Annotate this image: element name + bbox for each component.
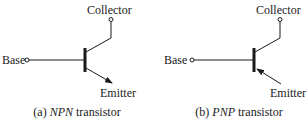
pnp-collector-label: Collector (256, 4, 301, 16)
caption-type: NPN (50, 105, 73, 119)
npn-base-label: Base (2, 54, 25, 66)
pnp-caption: (b) PNP transistor (162, 106, 308, 118)
npn-caption: (a) NPN transistor (0, 106, 154, 118)
npn-emitter-label: Emitter (100, 87, 136, 99)
pnp-emitter-label: Emitter (270, 87, 306, 99)
caption-prefix: (b) (195, 105, 212, 119)
caption-prefix: (a) (33, 105, 49, 119)
panel-npn: Collector Base Emitter (a) NPN transisto… (0, 0, 154, 129)
npn-collector-label: Collector (87, 4, 132, 16)
caption-suffix: transistor (235, 105, 283, 119)
pnp-base-label: Base (164, 54, 187, 66)
caption-suffix: transistor (73, 105, 121, 119)
panel-pnp: Collector Base Emitter (b) PNP transisto… (154, 0, 308, 129)
caption-type: PNP (212, 105, 235, 119)
